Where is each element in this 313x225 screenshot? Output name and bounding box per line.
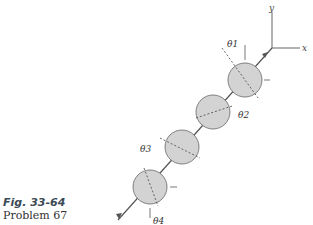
angle-label-2: θ2 [238,110,249,120]
disk-3 [160,130,200,164]
x-axis-label: x [302,43,307,53]
angle-label-1: θ1 [227,39,238,49]
disk-4 [133,168,177,218]
beam-arrow-top-icon [262,52,268,58]
polarizer-diagram: y x θ1 θ2 θ3 θ4 [0,0,313,225]
angle-label-4: θ4 [153,216,164,225]
disk-1 [222,45,270,98]
problem-label: Problem 67 [3,209,67,222]
y-axis-label: y [268,3,275,13]
angle-label-3: θ3 [140,144,151,154]
axes [272,12,300,48]
disk-2 [196,95,232,129]
figure-caption: Fig. 33-64 [3,196,65,209]
